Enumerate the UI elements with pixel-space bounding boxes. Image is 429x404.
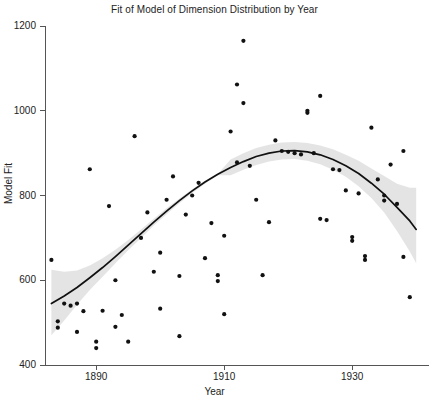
data-point bbox=[94, 346, 98, 350]
data-point bbox=[350, 235, 354, 239]
data-point bbox=[197, 181, 201, 185]
data-point bbox=[273, 138, 277, 142]
data-points-group bbox=[49, 39, 412, 350]
data-point bbox=[222, 312, 226, 316]
confidence-band bbox=[51, 142, 416, 335]
data-point bbox=[261, 273, 265, 277]
data-point bbox=[75, 301, 79, 305]
data-point bbox=[241, 101, 245, 105]
data-point bbox=[401, 149, 405, 153]
y-tick-label: 1000 bbox=[2, 105, 36, 116]
data-point bbox=[139, 236, 143, 240]
data-point bbox=[344, 188, 348, 192]
y-tick-label: 400 bbox=[2, 359, 36, 370]
data-point bbox=[408, 295, 412, 299]
data-point bbox=[56, 319, 60, 323]
data-point bbox=[305, 111, 309, 115]
data-point bbox=[216, 279, 220, 283]
x-tick-label: 1890 bbox=[74, 371, 118, 382]
data-point bbox=[363, 258, 367, 262]
data-point bbox=[145, 210, 149, 214]
data-point bbox=[94, 340, 98, 344]
plot-area bbox=[0, 0, 429, 404]
data-point bbox=[376, 177, 380, 181]
data-point bbox=[222, 234, 226, 238]
chart-container: Fit of Model of Dimension Distribution b… bbox=[0, 0, 429, 404]
data-point bbox=[369, 126, 373, 130]
data-point bbox=[190, 193, 194, 197]
data-point bbox=[350, 239, 354, 243]
data-point bbox=[254, 198, 258, 202]
y-tick-label: 1200 bbox=[2, 20, 36, 31]
data-point bbox=[133, 134, 137, 138]
data-point bbox=[216, 273, 220, 277]
data-point bbox=[101, 309, 105, 313]
data-point bbox=[107, 204, 111, 208]
data-point bbox=[49, 258, 53, 262]
data-point bbox=[126, 340, 130, 344]
data-point bbox=[171, 174, 175, 178]
data-point bbox=[318, 94, 322, 98]
data-point bbox=[299, 152, 303, 156]
data-point bbox=[325, 218, 329, 222]
data-point bbox=[248, 164, 252, 168]
data-point bbox=[337, 168, 341, 172]
tick-marks-group bbox=[40, 26, 352, 370]
data-point bbox=[113, 325, 117, 329]
data-point bbox=[241, 39, 245, 43]
data-point bbox=[158, 307, 162, 311]
data-point bbox=[382, 198, 386, 202]
data-point bbox=[401, 255, 405, 259]
data-point bbox=[363, 254, 367, 258]
data-point bbox=[235, 82, 239, 86]
confidence-band-group bbox=[51, 142, 416, 335]
data-point bbox=[177, 334, 181, 338]
y-tick-label: 800 bbox=[2, 190, 36, 201]
data-point bbox=[267, 220, 271, 224]
data-point bbox=[184, 212, 188, 216]
data-point bbox=[293, 151, 297, 155]
x-tick-label: 1910 bbox=[202, 371, 246, 382]
x-tick-label: 1930 bbox=[330, 371, 374, 382]
data-point bbox=[158, 251, 162, 255]
data-point bbox=[62, 301, 66, 305]
data-point bbox=[209, 221, 213, 225]
data-point bbox=[69, 304, 73, 308]
data-point bbox=[357, 191, 361, 195]
data-point bbox=[81, 309, 85, 313]
data-point bbox=[56, 326, 60, 330]
data-point bbox=[120, 313, 124, 317]
data-point bbox=[331, 167, 335, 171]
data-point bbox=[113, 278, 117, 282]
data-point bbox=[152, 270, 156, 274]
data-point bbox=[165, 198, 169, 202]
data-point bbox=[229, 129, 233, 133]
data-point bbox=[177, 274, 181, 278]
data-point bbox=[75, 330, 79, 334]
data-point bbox=[88, 167, 92, 171]
y-tick-label: 600 bbox=[2, 274, 36, 285]
data-point bbox=[389, 162, 393, 166]
data-point bbox=[318, 217, 322, 221]
data-point bbox=[203, 256, 207, 260]
